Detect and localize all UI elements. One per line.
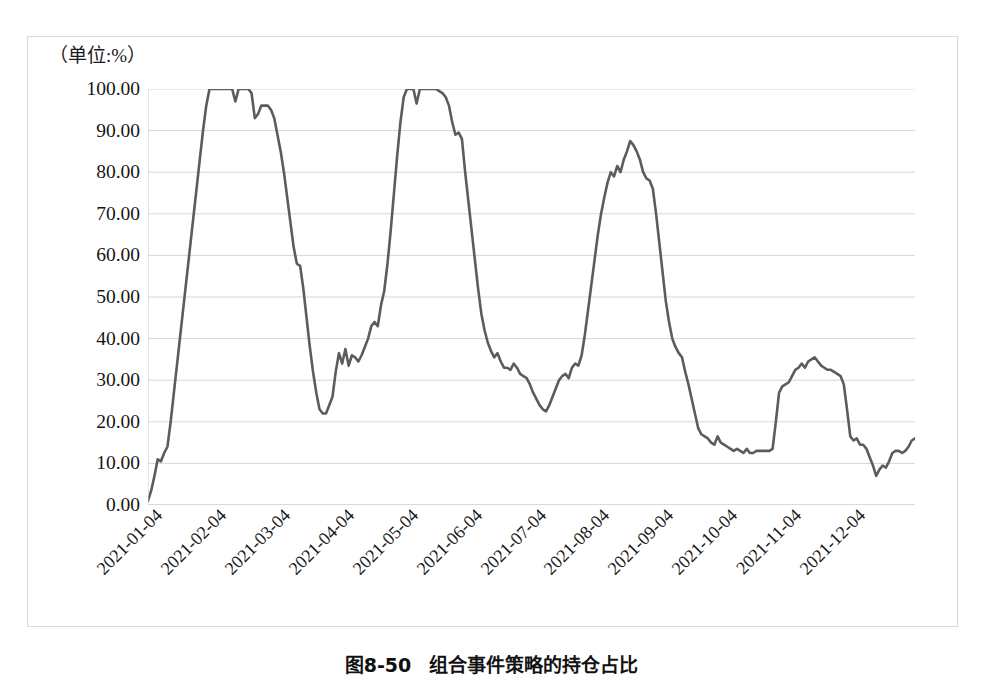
- x-axis-tick-label-text: 2021-02-04: [156, 505, 230, 579]
- y-axis-tick-label: 70.00: [96, 203, 140, 225]
- x-axis-tick-label: 2021-09-04: [604, 505, 678, 579]
- x-axis-tick-label-text: 2021-11-04: [732, 505, 806, 579]
- x-axis-tick-label-text: 2021-06-04: [412, 505, 486, 579]
- figure-caption: 图8-50组合事件策略的持仓占比: [0, 650, 983, 677]
- x-axis-tick-label: 2021-12-04: [796, 505, 870, 579]
- x-axis-tick-label-text: 2021-09-04: [604, 505, 678, 579]
- x-axis-tick-label: 2021-07-04: [476, 505, 550, 579]
- x-axis-tick-label: 2021-10-04: [668, 505, 742, 579]
- figure-caption-number: 图8-50: [345, 654, 412, 676]
- y-axis-tick-label: 100.00: [86, 78, 140, 100]
- x-axis-tick-label: 2021-08-04: [540, 505, 614, 579]
- x-axis-tick-label: 2021-03-04: [220, 505, 294, 579]
- x-axis-tick-label: 2021-02-04: [156, 505, 230, 579]
- y-axis-tick-labels: 0.0010.0020.0030.0040.0050.0060.0070.008…: [0, 89, 140, 505]
- x-axis-tick-label: 2021-06-04: [412, 505, 486, 579]
- x-axis-tick-label-text: 2021-08-04: [540, 505, 614, 579]
- grid-lines: [148, 89, 915, 505]
- x-axis-tick-label-text: 2021-04-04: [284, 505, 358, 579]
- x-axis-tick-label-text: 2021-10-04: [668, 505, 742, 579]
- x-axis-tick-label-text: 2021-03-04: [220, 505, 294, 579]
- y-axis-tick-label: 30.00: [96, 369, 140, 391]
- x-axis-tick-label-text: 2021-07-04: [476, 505, 550, 579]
- x-axis-tick-label: 2021-04-04: [284, 505, 358, 579]
- x-axis-tick-label-text: 2021-05-04: [348, 505, 422, 579]
- x-axis-tick-label-text: 2021-01-04: [93, 505, 167, 579]
- x-axis-tick-label-text: 2021-12-04: [796, 505, 870, 579]
- unit-axis-label: （单位:%）: [49, 40, 146, 67]
- x-axis-tick-label: 2021-05-04: [348, 505, 422, 579]
- y-axis-tick-label: 90.00: [96, 120, 140, 142]
- y-axis-tick-label: 10.00: [96, 452, 140, 474]
- data-series-line: [148, 89, 915, 501]
- y-axis-tick-label: 20.00: [96, 411, 140, 433]
- figure-caption-text: 组合事件策略的持仓占比: [429, 654, 638, 676]
- y-axis-tick-label: 50.00: [96, 286, 140, 308]
- x-axis-tick-label: 2021-11-04: [732, 505, 806, 579]
- y-axis-tick-label: 60.00: [96, 244, 140, 266]
- line-chart-svg: [148, 89, 915, 505]
- x-axis-tick-labels: 2021-01-042021-02-042021-03-042021-04-04…: [0, 505, 983, 625]
- x-axis-tick-label: 2021-01-04: [93, 505, 167, 579]
- y-axis-tick-label: 80.00: [96, 161, 140, 183]
- y-axis-tick-label: 40.00: [96, 328, 140, 350]
- chart-plot-area: [148, 89, 915, 505]
